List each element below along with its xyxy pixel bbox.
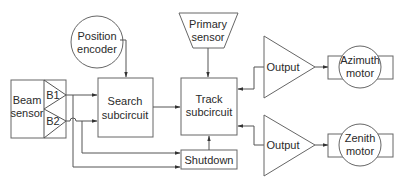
search-subcircuit-node: Search subcircuit [98, 78, 153, 137]
zenith-motor-node: Zenith motor [328, 124, 393, 166]
output-azimuth-node: Output [264, 36, 315, 98]
azimuth-motor-label-line2: motor [346, 67, 374, 79]
block-diagram: Position encoder Primary sensor Beam sen… [0, 0, 411, 186]
edge-output-zenith-to-track [238, 126, 264, 145]
position-encoder-node: Position encoder [71, 16, 123, 68]
output-azimuth-label: Output [266, 61, 299, 73]
zenith-motor-label-line1: Zenith [345, 132, 376, 144]
position-encoder-label-line1: Position [77, 30, 116, 42]
primary-sensor-label-line1: Primary [189, 18, 227, 30]
track-subcircuit-label-line1: Track [195, 93, 223, 105]
primary-sensor-node: Primary sensor [179, 13, 238, 48]
track-subcircuit-label-line2: subcircuit [186, 106, 232, 118]
output-zenith-node: Output [264, 115, 315, 176]
primary-sensor-label-line2: sensor [191, 31, 224, 43]
edge-output-azimuth-to-track [238, 67, 264, 89]
beam-sensor-label-line1: Beam [13, 94, 42, 106]
shutdown-label: Shutdown [185, 154, 234, 166]
zenith-motor-label-line2: motor [346, 145, 374, 157]
beam-sensor-port-b2: B2 [46, 115, 59, 127]
azimuth-motor-node: Azimuth motor [328, 46, 393, 88]
output-zenith-label: Output [266, 139, 299, 151]
beam-sensor-node: Beam sensor B1 B2 [10, 80, 66, 138]
beam-sensor-port-b1: B1 [46, 89, 59, 101]
search-subcircuit-label-line1: Search [108, 95, 143, 107]
position-encoder-label-line2: encoder [77, 43, 117, 55]
search-subcircuit-label-line2: subcircuit [102, 109, 148, 121]
beam-sensor-label-line2: sensor [10, 107, 43, 119]
shutdown-node: Shutdown [181, 150, 237, 169]
track-subcircuit-node: Track subcircuit [181, 78, 237, 135]
azimuth-motor-label-line1: Azimuth [340, 54, 380, 66]
edge-b2-to-search [66, 118, 97, 121]
